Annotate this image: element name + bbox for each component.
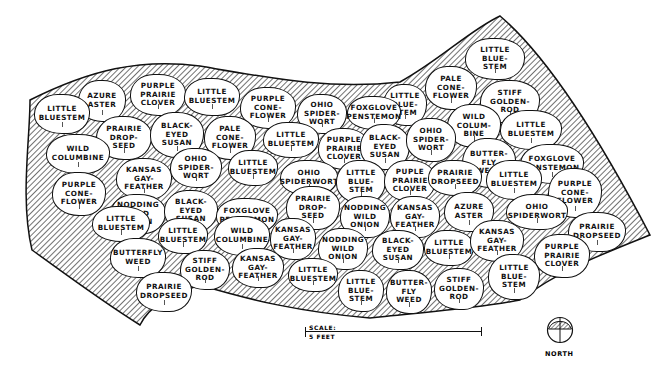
- plant-group: PRAIRIE DROPSEED: [136, 272, 192, 312]
- plant-label: STIFF GOLDEN- ROD: [439, 276, 479, 302]
- plant-group: PURPLE PRAIRIE CLOVER: [130, 74, 186, 116]
- plant-label: OHIO SPIDER- WORT: [178, 155, 214, 181]
- plant-group: WILD COLUMBINE: [46, 134, 110, 174]
- plant-label: PURPLE CONE- FLOWER: [250, 95, 287, 121]
- plant-label: OHIO SPIDER- WORT: [413, 127, 449, 153]
- north-label: NORTH: [545, 350, 574, 358]
- plant-group: OHIO SPIDER- WORT: [170, 148, 222, 188]
- plant-label: NODDING WILD ONION: [344, 204, 386, 230]
- plant-label: PRAIRIE DROPSEED: [140, 283, 188, 300]
- plant-label: LITTLE BLUESTEM: [508, 121, 555, 138]
- plant-group: LITTLE BLUE- STEM: [488, 254, 540, 300]
- plant-label: STIFF GOLDEN- ROD: [185, 257, 225, 283]
- plant-label: LITTLE BLUESTEM: [160, 227, 207, 244]
- plant-label: WILD COLUMBINE: [216, 227, 268, 244]
- plant-label: LITTLE BLUESTEM: [290, 266, 337, 283]
- plant-group: LITTLE BLUESTEM: [34, 94, 90, 134]
- plant-label: PURPLE PRAIRIE CLOVER: [326, 136, 362, 162]
- plant-group: LITTLE BLUE- STEM: [465, 38, 525, 80]
- plant-label: PURPLE CONE- FLOWER: [61, 181, 98, 207]
- plant-label: LITTLE BLUESTEM: [39, 105, 86, 122]
- plant-label: LITTLE BLUESTEM: [426, 239, 473, 256]
- plant-label: KANSAS GAY- FEATHER: [273, 226, 313, 252]
- plant-label: BUTTERFLY WEED: [113, 249, 163, 266]
- plant-label: KANSAS GAY- FEATHER: [124, 166, 164, 192]
- plant-group: PURPLE PRAIRIE CLOVER: [534, 234, 590, 278]
- plant-label: KANSAS GAY- FEATHER: [238, 255, 278, 281]
- plant-group: PURPLE CONE- FLOWER: [52, 172, 106, 216]
- plant-label: LITTLE BLUE- STEM: [499, 264, 529, 290]
- plant-group: LITTLE BLUESTEM: [424, 230, 474, 266]
- plant-group: LITTLE BLUESTEM: [228, 150, 278, 186]
- plant-group: LITTLE BLUESTEM: [92, 206, 150, 242]
- plant-label: KANSAS GAY- FEATHER: [477, 228, 517, 254]
- plant-group: LITTLE BLUESTEM: [158, 218, 208, 254]
- plant-label: OHIO SPIDERWORT: [508, 203, 567, 220]
- plant-label: PALE CONE- FLOWER: [212, 125, 249, 151]
- plant-group: LITTLE BLUESTEM: [184, 78, 240, 116]
- plant-label: WILD COLUMBINE: [52, 145, 104, 162]
- plant-label: PUPLE PRAIRIE CLOVER: [392, 168, 428, 194]
- plant-group: KANSAS GAY- FEATHER: [232, 248, 284, 288]
- plant-group: PRAIRIE DROPSEED: [428, 160, 482, 196]
- plant-label: KANSAS GAY- FEATHER: [395, 204, 435, 230]
- plant-label: AZURE ASTER: [87, 92, 117, 109]
- plant-group: BLACK- EYED SUSAN: [372, 230, 424, 270]
- plant-label: PALE CONE- FLOWER: [433, 75, 470, 101]
- plant-label: BLACK- EYED SUSAN: [161, 122, 193, 148]
- plant-label: PRAIRIE DROPSEED: [431, 169, 479, 186]
- plant-label: PURPLE PRAIRIE CLOVER: [140, 82, 176, 108]
- scale-bar: SCALE: 5 FEET: [305, 327, 482, 337]
- plant-label: WILD COLUM- BINE: [457, 113, 492, 139]
- north-arrow-icon: [546, 316, 574, 344]
- plant-label: LITTLE BLUESTEM: [491, 171, 538, 188]
- plant-label: LITTLE BLUE- STEM: [346, 169, 376, 195]
- plant-group: BUTTER- FLY WEED: [386, 270, 432, 314]
- plant-label: LITTLE BLUE- STEM: [480, 46, 510, 72]
- plant-label: PRAIRIE DROP- SEED: [295, 195, 331, 221]
- plant-label: LITTLE BLUESTEM: [189, 88, 236, 105]
- plant-label: NODDING WILD ONION: [322, 236, 364, 262]
- plant-label: BLACK- EYED SUSAN: [369, 134, 401, 160]
- plant-label: FOXGLOVE PENSTEMON: [347, 104, 402, 121]
- plant-label: BUTTER- FLY WEED: [390, 279, 428, 305]
- plant-label: PRAIRIE DROP- SEED: [106, 125, 142, 151]
- plant-label: OHIO SPIDERWORT: [280, 169, 339, 186]
- plant-group: LITTLE BLUE- STEM: [338, 270, 384, 312]
- plant-label: OHIO SPIDER- WORT: [304, 101, 340, 127]
- plant-group: LITTLE BLUESTEM: [288, 258, 338, 292]
- plant-label: LITTLE BLUESTEM: [230, 159, 277, 176]
- plant-label: AZURE ASTER: [454, 203, 484, 220]
- scale-label: SCALE:: [309, 324, 336, 331]
- scale-value: 5 FEET: [309, 333, 335, 340]
- plant-group: OHIO SPIDER- WORT: [406, 118, 456, 162]
- plant-label: LITTLE BLUE- STEM: [346, 278, 376, 304]
- plant-group: LITTLE BLUESTEM: [263, 122, 319, 158]
- plant-group: STIFF GOLDEN- ROD: [434, 268, 484, 310]
- plant-label: LITTLE BLUESTEM: [268, 131, 315, 148]
- plant-label: PURPLE PRAIRIE CLOVER: [544, 243, 580, 269]
- plant-label: BLACK- EYED SUSAN: [382, 237, 414, 263]
- plant-label: LITTLE BLUESTEM: [98, 215, 145, 232]
